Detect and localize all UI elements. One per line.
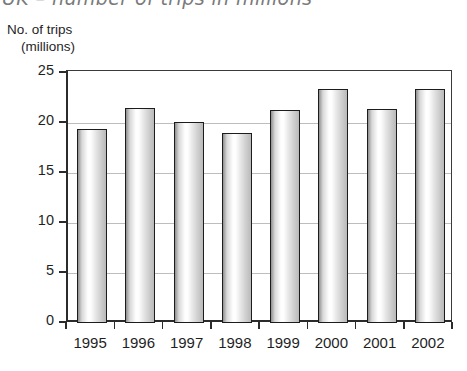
y-axis-title: No. of trips (millions) [7, 21, 75, 55]
y-axis-label: 5 [6, 262, 54, 278]
y-axis-label: 10 [6, 212, 54, 228]
x-axis-tick [65, 322, 67, 329]
x-axis-tick [114, 322, 116, 329]
y-axis-label: 0 [6, 312, 54, 328]
bar-1995 [77, 129, 107, 323]
y-axis-title-line2: (millions) [7, 38, 75, 55]
top-caption-text: UK – number of trips in millions [2, 0, 312, 9]
bar-2000 [318, 89, 348, 323]
bar-1997 [174, 122, 204, 323]
bar-2002 [415, 89, 445, 323]
bar-1998 [222, 133, 252, 323]
x-axis-tick [258, 322, 260, 329]
y-axis-tick [59, 271, 66, 273]
y-axis-title-line1: No. of trips [7, 22, 72, 37]
x-axis-tick [162, 322, 164, 329]
y-axis-tick [59, 71, 66, 73]
bar-2001 [367, 109, 397, 323]
x-axis-tick [451, 322, 453, 329]
x-axis-tick [403, 322, 405, 329]
y-axis-label: 15 [6, 162, 54, 178]
top-caption: UK – number of trips in millions [0, 0, 467, 14]
x-axis-label-2002: 2002 [400, 334, 456, 351]
x-axis-tick [307, 322, 309, 329]
bar-1996 [125, 108, 155, 323]
y-axis-tick [59, 171, 66, 173]
plot-frame [66, 70, 452, 322]
y-axis-tick [59, 221, 66, 223]
x-axis-tick [210, 322, 212, 329]
y-axis-label: 25 [6, 62, 54, 78]
plot-area [68, 71, 451, 320]
y-axis-tick [59, 121, 66, 123]
bar-1999 [270, 110, 300, 323]
y-axis-label: 20 [6, 112, 54, 128]
x-axis-tick [355, 322, 357, 329]
